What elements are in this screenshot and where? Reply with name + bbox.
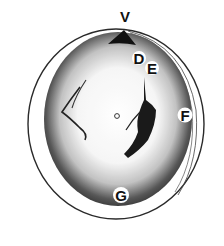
svg-text:D: D xyxy=(134,50,145,67)
label-g: G xyxy=(113,187,129,204)
specimen-figure: V D E F G xyxy=(0,0,224,246)
label-d: D xyxy=(132,50,146,67)
svg-text:F: F xyxy=(180,107,189,124)
svg-text:E: E xyxy=(147,60,157,77)
label-e: E xyxy=(145,60,159,77)
svg-text:G: G xyxy=(115,187,127,204)
label-v: V xyxy=(120,8,130,25)
svg-text:V: V xyxy=(120,8,130,25)
